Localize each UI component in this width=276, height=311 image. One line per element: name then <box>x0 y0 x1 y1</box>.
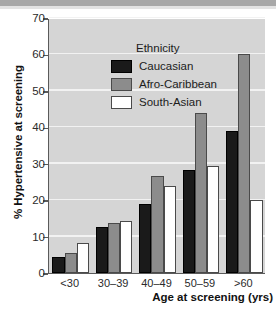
bar-60-caucasian <box>226 131 238 273</box>
bar-4049-afro-caribbean <box>151 176 163 273</box>
legend-label-afro-caribbean: Afro-Caribbean <box>139 78 217 91</box>
legend-item-south-asian: South-Asian <box>111 94 231 111</box>
x-tick-label-3: 50–59 <box>176 277 224 289</box>
x-tick-label-0: <30 <box>46 277 94 289</box>
figure-canvas: % Hypertensive at screening Ethnicity Ca… <box>0 0 276 311</box>
bar-5059-afro-caribbean <box>195 113 207 273</box>
bar-3039-afro-caribbean <box>108 223 120 273</box>
x-tick-label-4: >60 <box>219 277 267 289</box>
legend-label-south-asian: South-Asian <box>139 96 202 109</box>
y-tick-label-0: 0 <box>19 268 45 280</box>
gridline-40 <box>49 126 265 128</box>
legend-item-afro-caribbean: Afro-Caribbean <box>111 76 231 93</box>
bar-30-south-asian <box>77 243 89 273</box>
scan-artifact-band-light <box>0 6 276 9</box>
bar-5059-caucasian <box>183 170 195 273</box>
x-tick-label-1: 30–39 <box>89 277 137 289</box>
legend-swatch-caucasian-icon <box>111 60 132 73</box>
bar-3039-caucasian <box>96 227 108 273</box>
bar-30-caucasian <box>52 257 64 273</box>
bar-3039-south-asian <box>120 221 132 273</box>
legend-item-caucasian: Caucasian <box>111 58 231 75</box>
plot-area: Ethnicity Caucasian Afro-Caribbean South… <box>48 19 265 274</box>
bar-4049-south-asian <box>164 186 176 273</box>
bar-60-afro-caribbean <box>238 54 250 273</box>
bar-5059-south-asian <box>207 166 219 273</box>
bar-4049-caucasian <box>139 204 151 273</box>
gridline-70 <box>49 17 265 19</box>
y-axis-title: % Hypertensive at screening <box>12 32 24 252</box>
legend-label-caucasian: Caucasian <box>139 60 193 73</box>
bar-60-south-asian <box>250 200 262 273</box>
legend-swatch-afro-caribbean-icon <box>111 78 132 91</box>
chart-legend: Ethnicity Caucasian Afro-Caribbean South… <box>111 42 231 112</box>
y-tick-label-70: 70 <box>19 13 45 25</box>
bar-30-afro-caribbean <box>65 253 77 273</box>
x-tick-label-2: 40–49 <box>133 277 181 289</box>
legend-swatch-south-asian-icon <box>111 96 132 109</box>
x-axis-title: Age at screening (yrs) <box>118 291 273 303</box>
legend-title: Ethnicity <box>136 42 231 55</box>
